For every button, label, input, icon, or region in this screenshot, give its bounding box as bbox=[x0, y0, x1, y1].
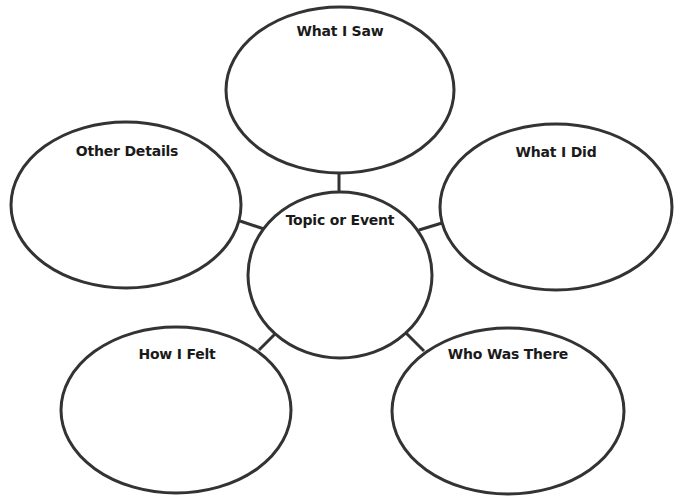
label-center-topic: Topic or Event bbox=[286, 212, 395, 228]
label-who-was-there: Who Was There bbox=[448, 346, 568, 362]
connector-other-details bbox=[240, 221, 264, 229]
web-diagram bbox=[0, 0, 677, 498]
connector-who-was-there bbox=[406, 333, 424, 351]
label-how-i-felt: How I Felt bbox=[138, 346, 215, 362]
label-other-details: Other Details bbox=[76, 143, 178, 159]
label-what-i-did: What I Did bbox=[516, 144, 597, 160]
connector-what-i-did bbox=[419, 223, 442, 230]
connector-how-i-felt bbox=[259, 333, 276, 350]
label-what-i-saw: What I Saw bbox=[297, 23, 384, 39]
